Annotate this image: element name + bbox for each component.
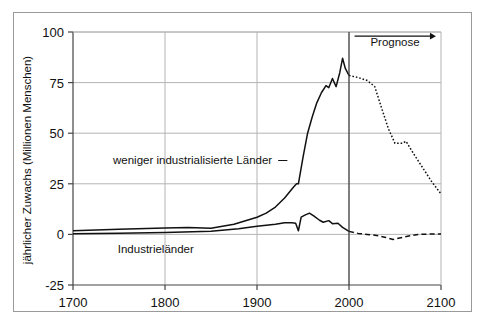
annotations-group: Prognose: [349, 32, 436, 285]
x-tick-label-2000: 2000: [335, 295, 364, 310]
y-tick-label-100: 100: [42, 25, 64, 40]
series-line-history-1: [73, 213, 349, 234]
prognose-arrow-head: [430, 33, 436, 40]
y-tick-label-75: 75: [50, 76, 64, 91]
y-axis-title: jährlicher Zuwachs (Millionen Menschen): [21, 56, 33, 266]
x-tick-label-1700: 1700: [59, 295, 88, 310]
y-tick-label--25: -25: [45, 278, 64, 293]
series-line-history-0: [73, 58, 349, 230]
series-line-forecast-1: [349, 231, 441, 239]
series-label-weniger-industrialisierte-laender: weniger industrialisierte Länder: [112, 154, 272, 166]
y-tick-label-0: 0: [57, 227, 64, 242]
tick-labels-group: -25025507510017001800190020002100: [42, 25, 455, 310]
series-label-industrielaender: Industrieländer: [118, 243, 194, 255]
series-line-forecast-0: [349, 76, 441, 194]
x-tick-label-1900: 1900: [243, 295, 272, 310]
y-tick-label-25: 25: [50, 177, 64, 192]
series-labels-group: weniger industrialisierte LänderIndustri…: [112, 154, 287, 255]
x-tick-label-2100: 2100: [427, 295, 456, 310]
figure-canvas: -25025507510017001800190020002100 Progno…: [0, 0, 487, 326]
prognose-label: Prognose: [370, 36, 419, 48]
x-tick-label-1800: 1800: [151, 295, 180, 310]
y-tick-label-50: 50: [50, 126, 64, 141]
population-growth-line-chart: -25025507510017001800190020002100 Progno…: [0, 0, 487, 326]
